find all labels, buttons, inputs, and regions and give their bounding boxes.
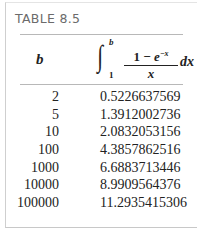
integrand-numerator: 1 − e−x [124,47,178,63]
numerator-minus: − [140,49,154,64]
numerator-exponent: −x [160,49,169,58]
integral-sign-icon: ∫ [97,38,103,74]
table-row: 2 0.5226637569 [0,89,197,107]
cell-b: 100 [38,142,59,158]
table-body: 2 0.5226637569 5 1.3912002736 10 2.08320… [0,89,197,213]
cell-value: 8.9909564376 [100,177,181,193]
cell-b: 100000 [17,195,59,211]
integral-lower-limit: 1 [109,70,114,80]
table-title: TABLE 8.5 [15,11,80,26]
cell-value: 11.2935415306 [100,195,187,211]
cell-value: 6.6883713446 [100,160,181,176]
table-row: 10000 8.9909564376 [0,177,197,195]
cell-b: 2 [52,89,59,105]
title-divider [20,34,183,35]
table-row: 10 2.0832053156 [0,124,197,142]
cell-value: 4.3857862516 [100,142,181,158]
cell-b: 10000 [24,177,59,193]
table-row: 100 4.3857862516 [0,142,197,160]
header-divider [20,84,183,85]
column-header-integral: ∫ b 1 1 − e−x x dx [96,38,196,84]
cell-b: 5 [52,107,59,123]
column-header-b: b [36,51,44,68]
cell-b: 1000 [31,160,59,176]
table-row: 100000 11.2935415306 [0,195,197,213]
cell-value: 1.3912002736 [100,107,181,123]
cell-value: 0.5226637569 [100,89,181,105]
cell-value: 2.0832053156 [100,124,181,140]
table-row: 1000 6.6883713446 [0,160,197,178]
differential: dx [180,54,194,70]
integral-upper-limit: b [109,37,114,47]
integrand-denominator: x [124,67,178,80]
integrand-fraction: 1 − e−x x [124,47,178,80]
cell-b: 10 [45,124,59,140]
table-row: 5 1.3912002736 [0,107,197,125]
